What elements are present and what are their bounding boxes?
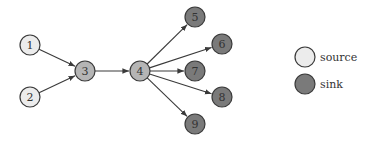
legend-label: source	[320, 51, 357, 64]
legend-item-source: source	[295, 47, 357, 67]
source-legend-swatch-icon	[295, 47, 315, 67]
node-label: 6	[219, 38, 226, 51]
edge-4-5	[147, 25, 187, 64]
node-label: 5	[192, 11, 199, 24]
sink-legend-swatch-icon	[295, 74, 315, 94]
node-8: 8	[212, 87, 232, 107]
node-label: 7	[192, 65, 199, 78]
node-4: 4	[130, 61, 150, 81]
edge-2-3	[39, 76, 75, 93]
node-label: 8	[219, 91, 226, 104]
node-1: 1	[20, 35, 40, 55]
node-7: 7	[185, 61, 205, 81]
node-label: 4	[137, 65, 144, 78]
node-label: 3	[82, 65, 89, 78]
legend-item-sink: sink	[295, 74, 343, 94]
graph-svg: 123456789 sourcesink	[0, 0, 371, 141]
node-2: 2	[20, 87, 40, 107]
node-label: 1	[27, 39, 34, 52]
node-label: 2	[27, 91, 34, 104]
edge-1-3	[39, 49, 75, 66]
node-label: 9	[192, 118, 199, 131]
node-6: 6	[212, 34, 232, 54]
legend: sourcesink	[295, 47, 357, 94]
node-9: 9	[185, 114, 205, 134]
node-5: 5	[185, 7, 205, 27]
graph-diagram: 123456789 sourcesink	[0, 0, 371, 141]
node-3: 3	[75, 61, 95, 81]
legend-label: sink	[320, 78, 343, 91]
